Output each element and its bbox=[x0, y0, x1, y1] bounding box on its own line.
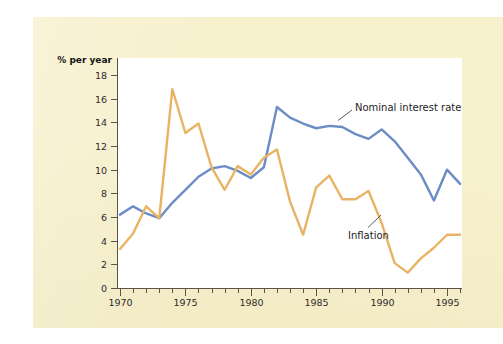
y-tick-label: 18 bbox=[95, 70, 107, 81]
x-tick-label: 1970 bbox=[108, 297, 132, 308]
line-chart: 024681012141618 197019751980198519901995… bbox=[0, 0, 503, 344]
x-axis-ticks: 197019751980198519901995 bbox=[108, 289, 460, 309]
y-axis-title: % per year bbox=[57, 55, 112, 65]
figure-root: 024681012141618 197019751980198519901995… bbox=[0, 0, 503, 344]
x-tick-label: 1990 bbox=[370, 297, 394, 308]
y-tick-label: 8 bbox=[101, 188, 107, 199]
annotations-group: Nominal interest rate Inflation bbox=[338, 102, 461, 241]
data-series-group bbox=[120, 89, 460, 272]
leader-line-inflation bbox=[368, 215, 381, 228]
y-tick-label: 16 bbox=[95, 94, 107, 105]
x-tick-label: 1975 bbox=[173, 297, 197, 308]
y-tick-label: 6 bbox=[101, 212, 107, 223]
y-axis-ticks: 024681012141618 bbox=[95, 70, 118, 294]
y-tick-label: 4 bbox=[101, 236, 107, 247]
x-tick-label: 1980 bbox=[239, 297, 263, 308]
leader-line-nominal-interest-rate bbox=[338, 110, 352, 121]
y-tick-label: 12 bbox=[95, 141, 107, 152]
y-tick-label: 10 bbox=[95, 165, 107, 176]
y-tick-label: 0 bbox=[101, 283, 107, 294]
annotation-inflation: Inflation bbox=[348, 230, 389, 241]
annotation-nominal-interest-rate: Nominal interest rate bbox=[355, 102, 461, 113]
x-tick-label: 1985 bbox=[304, 297, 328, 308]
x-tick-label: 1995 bbox=[435, 297, 459, 308]
y-tick-label: 14 bbox=[95, 117, 107, 128]
y-tick-label: 2 bbox=[101, 259, 107, 270]
